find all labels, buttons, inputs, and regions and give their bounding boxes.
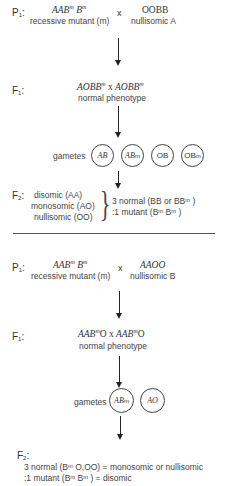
gamete-text: AB bbox=[125, 151, 135, 160]
gamete-circle: ABm bbox=[109, 388, 134, 413]
genotype-part: O bbox=[138, 329, 145, 339]
p1-left-genotype: AABm Bm bbox=[53, 260, 87, 270]
f2-ratio-mutant: :1 mutant (Bᵐ Bᵐ ) = disomic bbox=[24, 473, 132, 483]
p1-left-description: recessive mutant (m) bbox=[30, 16, 109, 26]
f1-colon: : bbox=[21, 85, 24, 96]
p1-label: P1: bbox=[12, 7, 25, 18]
p1-right-genotype: AAOO bbox=[140, 260, 165, 270]
f1-genotypes: AABmO x AABmO bbox=[78, 329, 145, 339]
arrow-down-icon bbox=[119, 291, 120, 315]
p1-colon: : bbox=[22, 262, 25, 273]
f2-label: F2: bbox=[12, 190, 24, 201]
gamete-circle: OBm bbox=[181, 144, 204, 167]
f2-colon: : bbox=[26, 450, 29, 461]
genotype-part: AOBB bbox=[115, 82, 139, 92]
f2-class-monosomic: monosomic (AO) bbox=[31, 201, 95, 211]
genotype-part: AAB bbox=[53, 260, 70, 270]
p1-left-genotype: AABm Bm bbox=[52, 5, 86, 15]
gamete-circle: AO bbox=[140, 388, 165, 413]
f2-class-nullisomic: nullisomic (OO) bbox=[34, 212, 93, 222]
cross-symbol: x bbox=[109, 329, 114, 339]
p1-right-genotype: OOBB bbox=[142, 5, 168, 15]
genotype-superscript: m bbox=[83, 259, 87, 265]
f2-ratio-mutant: :1 mutant (Bᵐ Bᵐ ) bbox=[112, 207, 181, 217]
genotype-part: AAB bbox=[116, 329, 133, 339]
gamete-text: AO bbox=[147, 396, 158, 405]
gametes-label: gametes bbox=[74, 397, 107, 407]
arrow-down-icon bbox=[118, 38, 119, 62]
f2-ratio-normal: 3 normal (Bᵐ O,OO) = monosomic or nullis… bbox=[24, 462, 203, 472]
arrow-down-icon bbox=[119, 356, 120, 384]
genotype-part: B bbox=[75, 260, 83, 270]
p1-letter: P bbox=[12, 7, 19, 18]
genotype-superscript: m bbox=[139, 81, 143, 87]
section-divider bbox=[13, 233, 215, 234]
f1-label: F1: bbox=[12, 85, 24, 96]
gametes-label: gametes bbox=[53, 151, 86, 161]
genotype-part: O bbox=[100, 329, 107, 339]
genotype-part: AAB bbox=[52, 5, 69, 15]
genotype-part: AAB bbox=[78, 329, 95, 339]
genotype-superscript: m bbox=[101, 81, 105, 87]
brace-icon: } bbox=[100, 186, 110, 222]
gamete-circle: AB bbox=[91, 144, 114, 167]
gamete-circle: ABm bbox=[121, 144, 144, 167]
gamete-text: OB bbox=[157, 151, 169, 160]
gamete-text: AB bbox=[114, 396, 124, 405]
p1-right-description: nullisomic A bbox=[131, 16, 176, 26]
f1-label: F1: bbox=[12, 331, 24, 342]
arrow-down-icon bbox=[118, 171, 119, 185]
f1-genotypes: AOBBm x AOBBm bbox=[77, 82, 144, 92]
f1-colon: : bbox=[21, 331, 24, 342]
gamete-text: AB bbox=[98, 151, 108, 160]
p1-colon: : bbox=[22, 7, 25, 18]
genotype-text: AAOO bbox=[140, 260, 165, 270]
f2-ratio-normal: 3 normal (BB or BBᵐ ) bbox=[112, 196, 195, 206]
genotype-text: OOBB bbox=[142, 5, 168, 15]
f1-description: normal phenotype bbox=[79, 341, 147, 351]
gamete-circle: OB bbox=[151, 144, 174, 167]
f2-class-disomic: disomic (AA) bbox=[34, 190, 82, 200]
p1-left-description: recessive mutant (m) bbox=[31, 271, 110, 281]
cross-symbol: x bbox=[117, 8, 122, 18]
genotype-part: B bbox=[74, 5, 82, 15]
gamete-text: OB bbox=[184, 151, 196, 160]
cross-symbol: x bbox=[108, 82, 113, 92]
genotype-superscript: m bbox=[82, 4, 86, 10]
genotype-part: AOBB bbox=[77, 82, 101, 92]
p1-right-description: nullisomic B bbox=[130, 271, 175, 281]
f2-label: F2: bbox=[17, 450, 29, 461]
f2-colon: : bbox=[21, 190, 24, 201]
arrow-down-icon bbox=[120, 416, 121, 436]
p1-letter: P bbox=[12, 262, 19, 273]
p1-label: P1: bbox=[12, 262, 25, 273]
cross-symbol: x bbox=[118, 263, 123, 273]
f1-description: normal phenotype bbox=[78, 93, 146, 103]
arrow-down-icon bbox=[118, 106, 119, 134]
